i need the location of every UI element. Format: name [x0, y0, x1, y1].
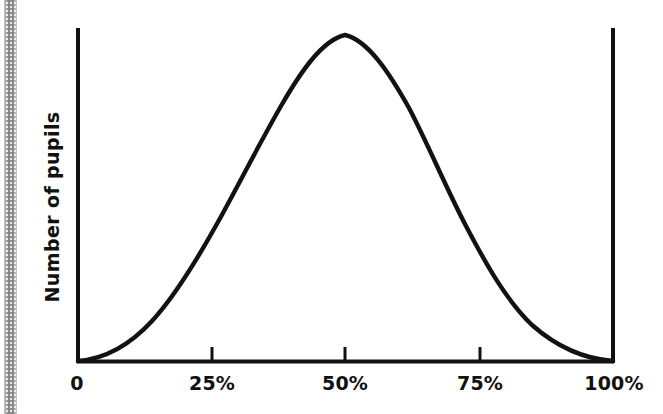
- plot-area: [0, 0, 663, 414]
- x-tick-label-0: 0: [70, 372, 83, 394]
- bell-curve-path: [78, 35, 613, 361]
- chart-figure: Number of pupils 0 25% 50% 75% 100%: [0, 0, 663, 414]
- x-tick-label-100: 100%: [584, 372, 644, 394]
- x-tick-label-75: 75%: [457, 372, 503, 394]
- x-tick-label-50: 50%: [322, 372, 368, 394]
- x-tick-label-25: 25%: [189, 372, 235, 394]
